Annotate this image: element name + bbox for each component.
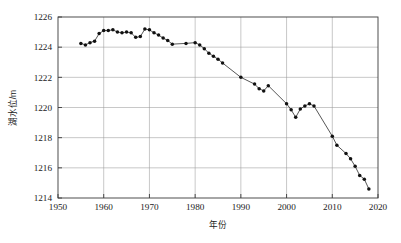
x-tick-label: 1950: [49, 202, 68, 212]
data-point: [299, 107, 303, 111]
data-point: [152, 31, 156, 35]
data-point: [239, 76, 243, 80]
data-point: [120, 31, 124, 35]
data-point: [88, 41, 92, 45]
data-point: [262, 89, 266, 93]
data-point: [367, 187, 371, 191]
data-point: [216, 57, 220, 61]
data-point: [221, 61, 225, 65]
data-point: [102, 29, 106, 33]
data-point: [207, 51, 211, 55]
data-point: [344, 152, 348, 156]
y-axis-title: 湖水位/m: [7, 90, 18, 127]
x-axis-tick-labels: 19501960197019801990200020102020: [49, 202, 388, 212]
data-point: [111, 28, 115, 32]
data-point: [257, 87, 261, 91]
data-point: [335, 143, 339, 147]
lake-water-level-line-chart: 1214121612181220122212241226 19501960197…: [0, 0, 401, 243]
data-point: [139, 35, 143, 39]
data-point: [212, 54, 216, 58]
data-point: [184, 42, 188, 46]
x-tick-label: 1990: [232, 202, 251, 212]
data-point: [349, 157, 353, 161]
data-point: [171, 42, 175, 46]
data-point: [116, 30, 120, 34]
data-point: [148, 28, 152, 32]
data-point: [79, 42, 83, 46]
data-point: [353, 165, 357, 169]
y-tick-label: 1226: [34, 12, 53, 22]
data-point: [125, 30, 129, 34]
data-point: [93, 39, 97, 43]
x-tick-label: 2000: [277, 202, 296, 212]
data-point: [267, 84, 271, 88]
y-tick-label: 1224: [34, 42, 53, 52]
data-point: [166, 39, 170, 43]
chart-figure: 1214121612181220122212241226 19501960197…: [0, 0, 401, 243]
data-point: [143, 27, 147, 31]
data-point: [198, 43, 202, 47]
x-tick-label: 2010: [323, 202, 342, 212]
data-point: [363, 177, 367, 181]
x-tick-label: 1980: [186, 202, 205, 212]
x-axis-title: 年份: [209, 219, 227, 230]
x-tick-label: 2020: [369, 202, 388, 212]
x-tick-label: 1970: [140, 202, 159, 212]
data-point: [97, 32, 101, 36]
data-point: [193, 41, 197, 45]
y-tick-label: 1222: [34, 73, 53, 83]
data-point: [129, 31, 133, 35]
data-point: [285, 102, 289, 106]
y-tick-label: 1220: [34, 103, 53, 113]
data-point: [358, 174, 362, 178]
data-point: [308, 102, 312, 106]
data-point: [289, 108, 293, 112]
data-point: [253, 82, 257, 86]
series-line-lake-level: [81, 29, 369, 189]
data-point: [203, 47, 207, 51]
data-point: [134, 36, 138, 40]
gridlines: [58, 17, 378, 198]
data-point: [107, 29, 111, 33]
y-axis-tick-labels: 1214121612181220122212241226: [34, 12, 53, 203]
series-markers-lake-level: [79, 27, 371, 190]
data-point: [331, 134, 335, 138]
data-point: [84, 43, 88, 47]
y-tick-label: 1216: [34, 163, 53, 173]
data-point: [303, 104, 307, 108]
data-point: [161, 36, 165, 40]
data-point: [294, 116, 298, 120]
data-point: [312, 104, 316, 108]
x-tick-label: 1960: [95, 202, 114, 212]
y-tick-label: 1218: [34, 133, 53, 143]
data-point: [157, 33, 161, 37]
